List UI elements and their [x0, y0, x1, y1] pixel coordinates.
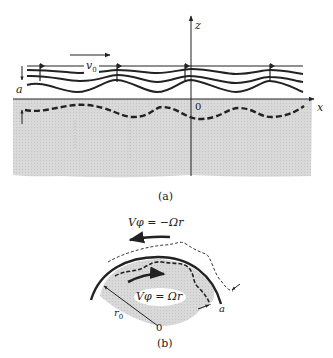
outer-velocity-label: Vφ = −Ωr — [128, 216, 183, 229]
streamline-1 — [27, 69, 303, 74]
x-axis-label: x — [317, 101, 323, 114]
caption-b: (b) — [157, 337, 173, 350]
amplitude-label-b: a — [219, 303, 225, 314]
inner-velocity-label: Vφ = Ωr — [136, 290, 182, 303]
diagram-canvas — [0, 0, 333, 358]
velocity-label: v0 — [84, 59, 99, 74]
radius-label: r0 — [114, 307, 123, 321]
origin-label-a: 0 — [195, 101, 201, 112]
origin-label-b: 0 — [156, 322, 162, 333]
outer-velocity-arrow — [130, 237, 170, 240]
amplitude-label-a: a — [16, 83, 23, 96]
fluid-region — [13, 99, 312, 177]
outer-amplitude-arrow — [232, 284, 240, 290]
caption-a: (a) — [158, 190, 173, 203]
streamline-2 — [27, 75, 303, 83]
z-axis-label: z — [195, 19, 201, 32]
figure-a — [13, 16, 314, 177]
